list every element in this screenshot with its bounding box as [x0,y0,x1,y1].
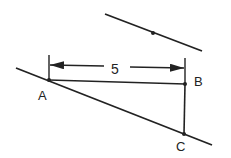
point-c [182,132,186,136]
upper-line-point [151,31,155,35]
point-b-label: B [194,75,203,88]
segment-ab [49,80,185,84]
point-a [47,78,51,82]
point-a-label: A [38,89,47,102]
point-c-label: C [176,140,185,153]
dimension-arrow-right [130,67,184,68]
point-b [183,82,187,86]
dimension-label: 5 [111,62,119,76]
segment-bc [184,84,185,134]
geometry-diagram: 5 A B C [0,0,231,158]
dimension-arrow-left [50,65,104,66]
upper-line [105,14,202,51]
